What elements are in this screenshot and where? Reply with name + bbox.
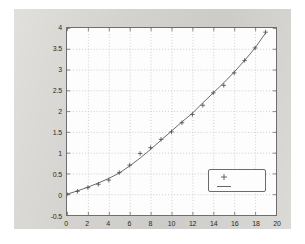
y-tick-label: 1.5 (22, 129, 62, 136)
x-tick-label: 4 (106, 220, 110, 227)
legend-entry-1 (209, 181, 265, 191)
x-tick-label: 10 (168, 220, 175, 227)
legend-box[interactable] (208, 169, 266, 192)
x-tick-label: 2 (85, 220, 89, 227)
y-tick-label: 3.5 (22, 45, 62, 52)
figure-root: -0.500.511.522.533.54 02468101214161820 (0, 0, 305, 244)
x-tick-label: 0 (64, 220, 68, 227)
y-tick-label: 3 (22, 66, 62, 73)
y-tick-label: 2.5 (22, 87, 62, 94)
y-tick-label: 1 (22, 150, 62, 157)
legend-line-icon (214, 181, 234, 191)
x-tick-label: 6 (127, 220, 131, 227)
x-tick-label: 18 (252, 220, 259, 227)
x-tick-label: 20 (273, 220, 280, 227)
y-tick-label: 0 (22, 192, 62, 199)
x-tick-label: 16 (231, 220, 238, 227)
figure-canvas: -0.500.511.522.533.54 02468101214161820 (14, 9, 291, 229)
plot-axes-box (66, 27, 277, 216)
y-tick-label: -0.5 (22, 213, 62, 220)
y-tick-label: 2 (22, 108, 62, 115)
y-tick-label: 0.5 (22, 171, 62, 178)
x-tick-label: 8 (149, 220, 153, 227)
x-tick-label: 14 (210, 220, 217, 227)
x-tick-label: 12 (189, 220, 196, 227)
y-tick-label: 4 (22, 24, 62, 31)
